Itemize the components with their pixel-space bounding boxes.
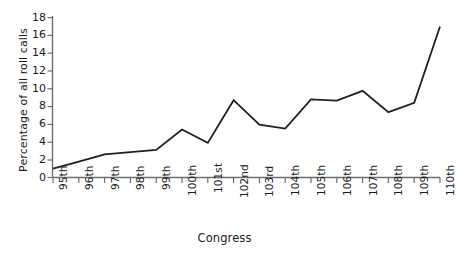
x-tick-label-101st: 101st bbox=[213, 163, 224, 193]
x-tick-label-110th: 110th bbox=[445, 165, 456, 196]
x-tick-label-95th: 95th bbox=[58, 165, 69, 190]
x-tick-label-107th: 107th bbox=[368, 165, 379, 196]
x-tick-label-106th: 106th bbox=[342, 165, 353, 196]
x-tick-label-109th: 109th bbox=[419, 165, 430, 196]
y-axis-ticks bbox=[48, 18, 53, 178]
x-tick-label-99th: 99th bbox=[161, 165, 172, 190]
x-tick-label-96th: 96th bbox=[84, 165, 95, 190]
x-tick-label-97th: 97th bbox=[110, 165, 121, 190]
x-tick-label-98th: 98th bbox=[135, 165, 146, 190]
x-axis-title: Congress bbox=[0, 232, 449, 245]
x-tick-label-100th: 100th bbox=[187, 165, 198, 196]
x-tick-label-108th: 108th bbox=[393, 165, 404, 196]
x-tick-label-102nd: 102nd bbox=[239, 164, 250, 198]
data-series-line bbox=[53, 26, 440, 168]
x-tick-label-104th: 104th bbox=[290, 165, 301, 196]
x-tick-label-105th: 105th bbox=[316, 165, 327, 196]
x-tick-label-103rd: 103rd bbox=[264, 166, 275, 197]
